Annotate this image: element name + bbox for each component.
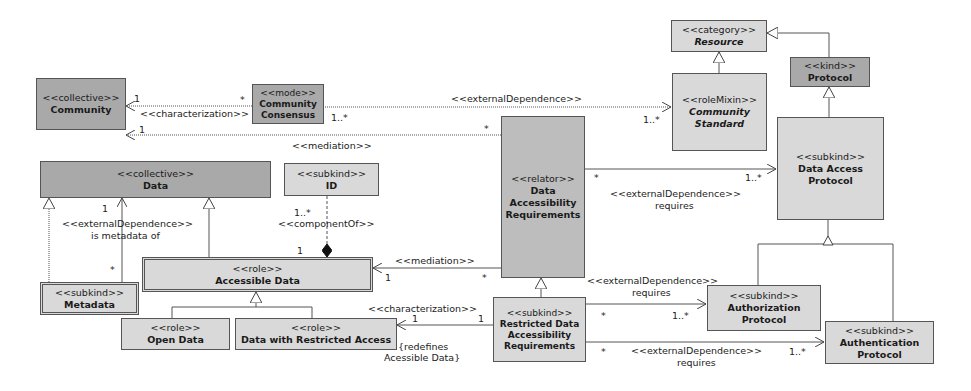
multiplicity: * bbox=[601, 346, 606, 357]
multiplicity: * bbox=[110, 264, 115, 275]
external-dependence-label: <<externalDependence>> bbox=[62, 218, 193, 229]
multiplicity: 1 bbox=[385, 272, 391, 283]
external-dependence-label: <<externalDependence>> bbox=[587, 275, 718, 286]
multiplicity: 1..* bbox=[331, 112, 348, 123]
class-name: Restricted Data Accessibility Requiremen… bbox=[497, 319, 583, 352]
class-id[interactable]: <<subkind>> ID bbox=[284, 163, 379, 196]
multiplicity: 1 bbox=[102, 203, 108, 214]
mediation-label: <<mediation>> bbox=[292, 140, 372, 151]
multiplicity: 1..* bbox=[294, 207, 311, 218]
multiplicity: * bbox=[594, 172, 599, 183]
class-open-data[interactable]: <<role>> Open Data bbox=[121, 318, 230, 350]
class-name: Community Standard bbox=[685, 106, 755, 130]
external-dependence-sub: is metadata of bbox=[91, 230, 160, 241]
external-dependence-label: <<externalDependence>> bbox=[610, 188, 741, 199]
multiplicity: 1 bbox=[412, 313, 418, 324]
class-name: Authentication Protocol bbox=[835, 337, 925, 361]
stereotype: <<subkind>> bbox=[796, 151, 865, 163]
stereotype: <<role>> bbox=[233, 263, 283, 275]
class-accessible-data[interactable]: <<role>> Accessible Data bbox=[142, 257, 373, 292]
stereotype: <<collective>> bbox=[42, 92, 119, 104]
external-dependence-label: <<externalDependence>> bbox=[451, 93, 582, 104]
class-name: ID bbox=[326, 180, 337, 192]
class-community-consensus[interactable]: <<mode>> Community Consensus bbox=[252, 84, 324, 124]
class-protocol[interactable]: <<kind>> Protocol bbox=[790, 57, 870, 87]
multiplicity: 1 bbox=[478, 313, 484, 324]
class-name: Community Consensus bbox=[255, 99, 321, 121]
class-restricted-data-accessibility-requirements[interactable]: <<subkind>> Restricted Data Accessibilit… bbox=[493, 297, 586, 362]
class-name: Metadata bbox=[64, 299, 115, 311]
multiplicity: 1 bbox=[297, 245, 303, 256]
stereotype: <<kind>> bbox=[804, 60, 856, 72]
stereotype: <<relator>> bbox=[511, 173, 574, 185]
stereotype: <<category>> bbox=[682, 24, 756, 36]
class-resource[interactable]: <<category>> Resource bbox=[671, 20, 767, 52]
class-name: Community bbox=[51, 104, 112, 116]
multiplicity: 1..* bbox=[745, 172, 762, 183]
multiplicity: 1 bbox=[134, 93, 140, 104]
class-metadata[interactable]: <<subkind>> Metadata bbox=[40, 282, 139, 315]
stereotype: <<role>> bbox=[151, 322, 201, 334]
class-name: Resource bbox=[695, 36, 744, 48]
multiplicity: * bbox=[240, 94, 245, 105]
multiplicity: 1..* bbox=[643, 114, 660, 125]
class-authorization-protocol[interactable]: <<subkind>> Authorization Protocol bbox=[707, 285, 821, 331]
class-authentication-protocol[interactable]: <<subkind>> Authentication Protocol bbox=[825, 321, 934, 364]
stereotype: <<role>> bbox=[291, 322, 341, 334]
class-name: Protocol bbox=[808, 72, 853, 84]
class-name: Authorization Protocol bbox=[724, 302, 804, 326]
stereotype: <<subkind>> bbox=[297, 168, 366, 180]
redefines-constraint: {redefines bbox=[398, 341, 448, 352]
component-of-label: <<componentOf>> bbox=[278, 218, 374, 229]
characterization-label: <<characterization>> bbox=[140, 108, 249, 119]
multiplicity: * bbox=[601, 310, 606, 321]
class-name: Data Accessibility Requirements bbox=[505, 185, 581, 221]
class-data-access-protocol[interactable]: <<subkind>> Data Access Protocol bbox=[777, 117, 884, 220]
class-community[interactable]: <<collective>> Community bbox=[36, 78, 126, 130]
class-data-with-restricted-access[interactable]: <<role>> Data with Restricted Access bbox=[235, 318, 397, 350]
multiplicity: * bbox=[484, 123, 489, 134]
mediation-label: <<mediation>> bbox=[395, 255, 475, 266]
characterization-label: <<characterization>> bbox=[368, 303, 477, 314]
multiplicity: 1..* bbox=[672, 310, 689, 321]
class-name: Data Access Protocol bbox=[791, 163, 871, 187]
class-data-accessibility-requirements[interactable]: <<relator>> Data Accessibility Requireme… bbox=[501, 116, 585, 278]
stereotype: <<subkind>> bbox=[507, 308, 572, 319]
redefines-constraint: Acessible Data} bbox=[384, 352, 460, 363]
external-dependence-label: <<externalDependence>> bbox=[631, 345, 762, 356]
class-name: Data bbox=[143, 180, 168, 192]
class-community-standard[interactable]: <<roleMixin>> Community Standard bbox=[672, 73, 767, 151]
stereotype: <<roleMixin>> bbox=[682, 94, 757, 106]
class-name: Accessible Data bbox=[215, 275, 300, 287]
stereotype: <<mode>> bbox=[260, 88, 316, 99]
external-dependence-sub: requires bbox=[677, 357, 716, 368]
class-name: Data with Restricted Access bbox=[241, 334, 391, 346]
class-name: Open Data bbox=[147, 334, 204, 346]
class-data[interactable]: <<collective>> Data bbox=[40, 161, 271, 198]
external-dependence-sub: requires bbox=[632, 287, 671, 298]
multiplicity: 1 bbox=[139, 124, 145, 135]
multiplicity: * bbox=[482, 272, 487, 283]
external-dependence-sub: requires bbox=[655, 200, 694, 211]
stereotype: <<subkind>> bbox=[55, 287, 124, 299]
stereotype: <<collective>> bbox=[117, 168, 194, 180]
stereotype: <<subkind>> bbox=[845, 325, 914, 337]
multiplicity: 1..* bbox=[789, 346, 806, 357]
stereotype: <<subkind>> bbox=[729, 290, 798, 302]
